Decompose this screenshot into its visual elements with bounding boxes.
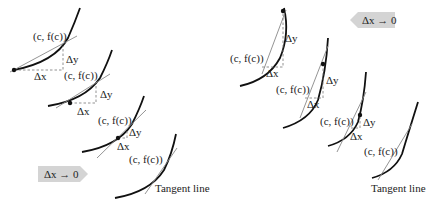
secant-to-tangent-diagram: (c, f(c)) Δy Δx (c, f(c)) Δy Δx (c, f(c)… bbox=[0, 0, 429, 202]
svg-text:Tangent line: Tangent line bbox=[371, 182, 426, 194]
svg-text:Δx: Δx bbox=[77, 105, 90, 117]
svg-text:Δx: Δx bbox=[34, 70, 47, 82]
svg-text:(c, f(c)): (c, f(c)) bbox=[129, 153, 163, 166]
svg-text:Δx: Δx bbox=[307, 98, 320, 110]
svg-text:Δy: Δy bbox=[66, 53, 79, 65]
svg-text:Δx → 0: Δx → 0 bbox=[44, 168, 79, 180]
svg-text:Δx → 0: Δx → 0 bbox=[362, 14, 397, 26]
svg-text:Δy: Δy bbox=[285, 32, 298, 44]
left-panel: (c, f(c)) Δy Δx (c, f(c)) Δy Δx (c, f(c)… bbox=[10, 8, 210, 198]
right-frame-1: (c, f(c)) Δy Δx bbox=[230, 8, 298, 86]
svg-text:Δy: Δy bbox=[326, 74, 339, 86]
svg-text:(c, f(c)): (c, f(c)) bbox=[98, 114, 132, 127]
limit-arrow-left: Δx → 0 bbox=[350, 12, 397, 28]
svg-text:Tangent line: Tangent line bbox=[155, 182, 210, 194]
svg-text:(c, f(c)): (c, f(c)) bbox=[64, 69, 98, 82]
svg-text:(c, f(c)): (c, f(c)) bbox=[276, 83, 310, 96]
svg-text:(c, f(c)): (c, f(c)) bbox=[364, 145, 398, 158]
left-frame-2: (c, f(c)) Δy Δx bbox=[48, 50, 113, 117]
left-frame-3: (c, f(c)) Δy Δx bbox=[82, 96, 146, 158]
svg-text:(c, f(c)): (c, f(c)) bbox=[230, 52, 264, 65]
svg-text:Δx: Δx bbox=[117, 140, 130, 152]
svg-text:Δy: Δy bbox=[129, 126, 142, 138]
svg-text:(c, f(c)): (c, f(c)) bbox=[320, 115, 354, 128]
svg-text:Δx: Δx bbox=[350, 130, 363, 142]
right-panel: (c, f(c)) Δy Δx (c, f(c)) Δy Δx (c, f(c)… bbox=[230, 8, 426, 194]
svg-text:Δy: Δy bbox=[363, 116, 376, 128]
limit-arrow-right: Δx → 0 bbox=[38, 166, 88, 182]
svg-text:Δx: Δx bbox=[266, 67, 279, 79]
svg-text:Δy: Δy bbox=[100, 88, 113, 100]
svg-text:(c, f(c)): (c, f(c)) bbox=[33, 30, 67, 43]
